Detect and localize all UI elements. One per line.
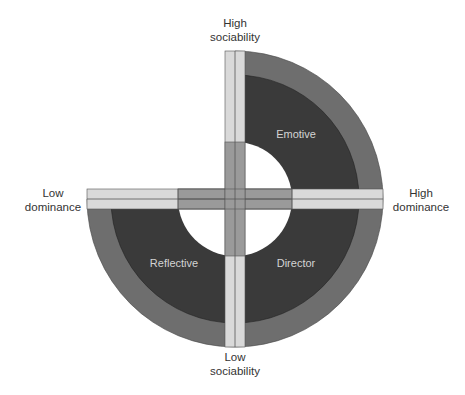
axis-label-line: Low xyxy=(195,350,275,364)
quadrant-reflective xyxy=(87,199,235,347)
axis-label-low-dominance: Low dominance xyxy=(18,186,88,214)
axis-label-line: sociability xyxy=(195,364,275,378)
director-label: Director xyxy=(277,257,316,269)
axis-label-high-dominance: High dominance xyxy=(386,186,456,214)
quadrant-director xyxy=(235,199,383,347)
quadrant-emotive xyxy=(235,51,383,199)
emotive-label: Emotive xyxy=(276,128,316,140)
axis-label-line: dominance xyxy=(386,200,456,214)
axis-label-high-sociability: High sociability xyxy=(195,16,275,44)
axis-label-line: High xyxy=(386,186,456,200)
axis-label-line: Low xyxy=(18,186,88,200)
reflective-label: Reflective xyxy=(150,257,198,269)
axis-label-line: High xyxy=(195,16,275,30)
axis-label-line: sociability xyxy=(195,30,275,44)
axis-label-line: dominance xyxy=(18,200,88,214)
axis-label-low-sociability: Low sociability xyxy=(195,350,275,378)
